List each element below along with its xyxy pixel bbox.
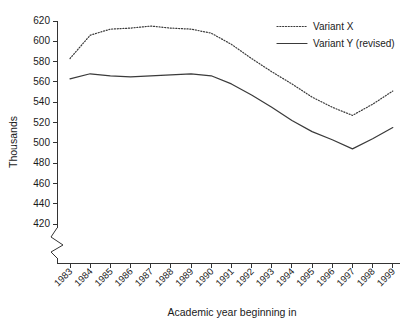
y-tick-label: 620 [33, 15, 50, 26]
x-tick-label: 1988 [153, 266, 176, 289]
y-tick-label: 500 [33, 137, 50, 148]
x-tick-label: 1989 [173, 266, 196, 289]
x-tick-label: 1991 [213, 266, 236, 289]
legend-item-variant-y[interactable]: Variant Y (revised) [277, 38, 395, 49]
y-tick-label: 540 [33, 96, 50, 107]
x-tick-label: 1992 [233, 266, 256, 289]
y-tick-label: 520 [33, 117, 50, 128]
x-tick-label: 1993 [253, 266, 276, 289]
y-tick-label: 460 [33, 178, 50, 189]
x-tick-label: 1997 [334, 266, 357, 289]
y-tick-label: 560 [33, 76, 50, 87]
y-tick-label: 600 [33, 35, 50, 46]
y-tick-label: 580 [33, 56, 50, 67]
x-tick-label: 1994 [274, 266, 297, 289]
x-tick-label: 1996 [314, 266, 337, 289]
y-tick-label: 480 [33, 157, 50, 168]
x-tick-label: 1985 [92, 266, 115, 289]
x-axis-ticks [70, 263, 393, 268]
legend: Variant X Variant Y (revised) [277, 21, 395, 49]
line-chart: 620 600 580 560 540 520 500 480 460 440 … [0, 0, 410, 325]
chart-canvas: 620 600 580 560 540 520 500 480 460 440 … [0, 0, 410, 325]
y-axis-tick-labels: 620 600 580 560 540 520 500 480 460 440 … [33, 15, 50, 229]
x-axis-tick-labels: 1983 1984 1985 1986 1987 1988 1989 1990 … [52, 266, 398, 289]
x-tick-label: 1999 [374, 266, 397, 289]
series-line-variant-y [70, 74, 393, 149]
legend-item-variant-x[interactable]: Variant X [277, 21, 354, 32]
y-axis-title: Thousands [7, 116, 19, 168]
x-tick-label: 1983 [52, 266, 75, 289]
x-tick-label: 1986 [112, 266, 135, 289]
x-tick-label: 1995 [294, 266, 317, 289]
y-axis-ticks [53, 21, 57, 224]
legend-label: Variant X [313, 21, 354, 32]
x-tick-label: 1984 [72, 266, 95, 289]
x-axis-title: Academic year beginning in [168, 306, 297, 318]
x-tick-label: 1990 [193, 266, 216, 289]
legend-label: Variant Y (revised) [313, 38, 395, 49]
x-tick-label: 1987 [132, 266, 155, 289]
x-tick-label: 1998 [354, 266, 377, 289]
y-tick-label: 420 [33, 218, 50, 229]
y-tick-label: 440 [33, 198, 50, 209]
axis-break-icon [51, 228, 63, 258]
